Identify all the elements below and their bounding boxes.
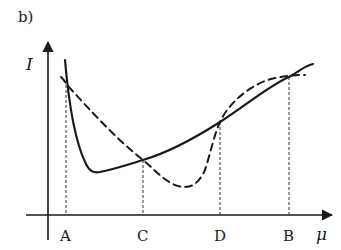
dashed-curve — [61, 75, 305, 187]
point-label-c: C — [137, 227, 148, 245]
panel-label: b) — [18, 8, 33, 26]
diagram: b) I μ A C D B — [0, 0, 341, 250]
point-label-a: A — [59, 227, 71, 245]
x-axis-label: μ — [316, 224, 327, 244]
y-axis-label: I — [25, 54, 33, 74]
point-label-b: B — [283, 227, 294, 245]
solid-curve — [65, 60, 313, 172]
point-label-d: D — [214, 227, 226, 245]
